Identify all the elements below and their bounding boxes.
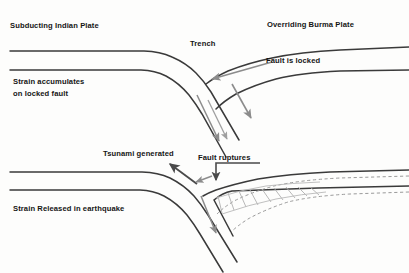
subduction-tsunami-diagram: Subducting Indian Plate Overriding Burma… xyxy=(0,0,409,273)
slab-inner-arrow xyxy=(208,100,227,139)
label-fault-ruptures: Fault ruptures xyxy=(198,152,250,164)
lower-panel-geometry xyxy=(10,163,409,272)
label-strain-accumulates-line1: Strain accumulates xyxy=(13,76,84,88)
rebound-arrow xyxy=(196,176,212,182)
label-subducting-indian-plate: Subducting Indian Plate xyxy=(10,20,99,32)
label-overriding-burma-plate: Overriding Burma Plate xyxy=(267,19,354,31)
label-fault-is-locked: Fault is locked xyxy=(266,55,320,67)
label-strain-released-in-earthquake: Strain Released in earthquake xyxy=(13,203,124,215)
upper-panel-geometry xyxy=(10,47,409,157)
label-tsunami-generated: Tsunami generated xyxy=(103,148,174,160)
indian-plate-top-surface-lower xyxy=(10,172,237,262)
label-strain-accumulates-line2: on locked fault xyxy=(13,88,68,100)
label-trench: Trench xyxy=(190,38,216,50)
dashed-prior-base xyxy=(230,192,409,233)
fault-rupture-arrow xyxy=(216,163,260,180)
slab-descent-arrow-lower xyxy=(201,196,216,233)
slab-descent-arrow xyxy=(197,95,219,141)
burma-plate-base xyxy=(216,70,409,109)
convergence-arrow xyxy=(212,62,272,79)
